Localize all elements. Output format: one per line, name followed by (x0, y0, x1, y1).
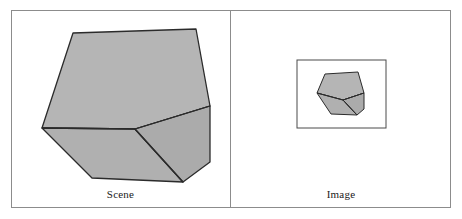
image-caption: Image (231, 188, 451, 200)
figure-container: Scene Image (0, 0, 462, 219)
scene-panel: Scene (11, 10, 230, 208)
scene-cube-drawing (11, 10, 230, 208)
image-panel: Image (231, 10, 451, 208)
image-plane-drawing (231, 10, 451, 208)
scene-caption: Scene (11, 188, 230, 200)
